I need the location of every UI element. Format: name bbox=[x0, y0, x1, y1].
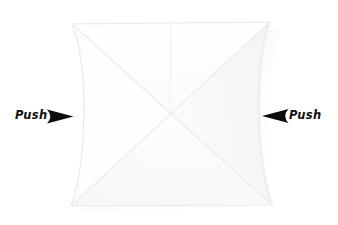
push-label-right: Push bbox=[289, 110, 321, 122]
push-arrow-left bbox=[47, 110, 74, 124]
origami-figure bbox=[0, 0, 338, 225]
diagram-canvas: Push Push bbox=[0, 0, 338, 225]
push-label-left: Push bbox=[15, 110, 47, 122]
paper-sheet bbox=[71, 22, 272, 206]
